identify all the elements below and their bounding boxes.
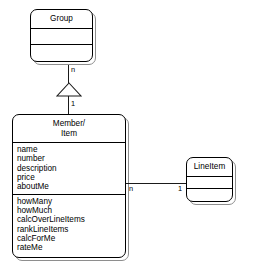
class-box-group[interactable]: Group (30, 9, 96, 65)
class-box-lineitem[interactable]: LineItem (186, 157, 236, 205)
class-box-body: LineItem (186, 157, 233, 202)
attribute-item: description (17, 164, 122, 173)
multiplicity-group-end: n (71, 66, 75, 74)
class-box-body: Group (30, 9, 93, 62)
operation-item: calcForMe (17, 234, 122, 243)
generalization-line-lower (68, 96, 69, 114)
multiplicity-lineitem-end: 1 (178, 185, 182, 193)
attributes-compartment-group (31, 28, 92, 45)
attribute-item: price (17, 173, 122, 182)
attributes-compartment-lineitem (187, 176, 232, 189)
class-box-member-item[interactable]: Member/ Item name number description pri… (12, 114, 129, 261)
class-name-group: Group (31, 10, 92, 28)
operations-compartment-group (31, 44, 92, 61)
operation-item: rankLineItems (17, 225, 122, 234)
class-box-body: Member/ Item name number description pri… (12, 114, 126, 258)
attributes-compartment-member-item: name number description price aboutMe (13, 142, 125, 193)
operation-item: rateMe (17, 243, 122, 252)
generalization-triangle-icon (56, 82, 82, 97)
class-name-lineitem: LineItem (187, 158, 232, 176)
operation-item: howMuch (17, 206, 122, 215)
generalization-line-upper (68, 65, 69, 83)
operation-item: howMany (17, 197, 122, 206)
attribute-item: name (17, 145, 122, 154)
operations-compartment-member-item: howMany howMuch calcOverLineItems rankLi… (13, 194, 125, 255)
attribute-item: number (17, 154, 122, 163)
attribute-item: aboutMe (17, 182, 122, 191)
class-name-member-item: Member/ Item (13, 115, 125, 142)
operation-item: calcOverLineItems (17, 215, 122, 224)
uml-class-diagram: Group n 1 Member/ Item name number descr… (0, 0, 255, 276)
multiplicity-member-right-end: n (129, 185, 133, 193)
multiplicity-member-top-end: 1 (71, 100, 75, 108)
operations-compartment-lineitem (187, 188, 232, 201)
